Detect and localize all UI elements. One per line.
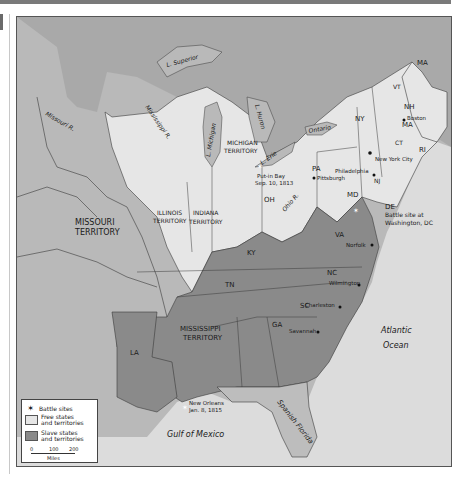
- svg-text:Ocean: Ocean: [383, 341, 409, 350]
- label-nc: NC: [327, 269, 337, 277]
- label-ri: RI: [419, 146, 426, 154]
- label-illinois-territory: ILLINOIS: [157, 209, 182, 216]
- label-mississippi-territory: MISSISSIPPI: [180, 325, 221, 333]
- label-charleston: Charleston: [305, 302, 335, 308]
- city-dot-pittsburgh: [313, 177, 316, 180]
- svg-text:TERRITORY: TERRITORY: [152, 217, 187, 224]
- label-pa: PA: [312, 165, 321, 173]
- label-missouri-territory: MISSOURI: [75, 218, 115, 227]
- label-ga: GA: [272, 321, 282, 329]
- legend-battle-sites: ✶ Battle sites: [25, 404, 73, 413]
- label-norfolk: Norfolk: [346, 242, 367, 248]
- label-atlantic-ocean: Atlantic: [380, 326, 412, 335]
- svg-text:Sep. 10, 1813: Sep. 10, 1813: [255, 180, 294, 187]
- label-ma-north: MA: [417, 59, 428, 67]
- svg-text:TERRITORY: TERRITORY: [182, 334, 223, 342]
- label-wilmington: Wilmington: [329, 280, 361, 287]
- label-nh: NH: [404, 103, 415, 111]
- city-dot-nyc: [368, 151, 372, 155]
- legend-free-states: Free statesand territories: [25, 414, 84, 426]
- label-ny: NY: [355, 115, 365, 123]
- svg-text:Jan. 8, 1815: Jan. 8, 1815: [188, 407, 222, 414]
- label-washington-battle: Battle site at: [385, 211, 424, 218]
- top-header-bar: [0, 0, 451, 4]
- label-philadelphia: Philadelphia: [335, 168, 369, 175]
- label-ct: CT: [395, 139, 403, 146]
- label-new-york-city: New York City: [375, 156, 413, 163]
- label-md: MD: [347, 191, 358, 199]
- label-ma: MA: [402, 121, 413, 129]
- side-tab-marker: [0, 14, 3, 30]
- map-frame: MISSOURI TERRITORY ILLINOIS TERRITORY IN…: [16, 16, 452, 467]
- label-de: DE: [385, 203, 395, 211]
- city-dot-boston: [403, 119, 406, 122]
- label-pittsburgh: Pittsburgh: [317, 175, 346, 182]
- label-nj: NJ: [374, 177, 380, 185]
- label-la: LA: [130, 349, 139, 357]
- city-dot-norfolk: [371, 244, 374, 247]
- slave-swatch: [25, 431, 38, 441]
- label-boston: Boston: [407, 115, 427, 121]
- label-tn: TN: [224, 281, 235, 289]
- free-swatch: [25, 415, 38, 425]
- label-ky: KY: [247, 249, 256, 257]
- label-vt: VT: [393, 83, 401, 90]
- margin-rule: [9, 14, 10, 474]
- battle-site-icon-new-orleans: ✶: [182, 404, 188, 412]
- battle-site-icon: ✶: [25, 404, 36, 413]
- city-dot-charleston: [339, 306, 342, 309]
- label-new-orleans: New Orleans: [189, 400, 224, 406]
- label-put-in-bay: Put-in Bay: [257, 173, 286, 180]
- label-va: VA: [335, 231, 344, 239]
- city-dot-savannah: [317, 331, 320, 334]
- city-dot-philadelphia: [373, 174, 376, 177]
- svg-text:TERRITORY: TERRITORY: [223, 147, 258, 154]
- svg-text:TERRITORY: TERRITORY: [74, 228, 120, 237]
- svg-text:TERRITORY: TERRITORY: [188, 218, 223, 225]
- legend-slave-states: Slave statesand territories: [25, 430, 84, 442]
- label-gulf-of-mexico: Gulf of Mexico: [167, 430, 224, 439]
- svg-text:Washington, DC: Washington, DC: [385, 219, 433, 227]
- map-legend: ✶ Battle sites Free statesand territorie…: [21, 399, 98, 463]
- label-indiana-territory: INDIANA: [193, 209, 219, 216]
- label-michigan-territory: MICHIGAN: [227, 139, 258, 146]
- label-oh: OH: [264, 196, 275, 204]
- label-savannah: Savannah: [289, 328, 317, 334]
- battle-site-icon-washington: ✶: [353, 207, 359, 215]
- battle-site-icon-put-in-bay: ✶: [257, 163, 263, 171]
